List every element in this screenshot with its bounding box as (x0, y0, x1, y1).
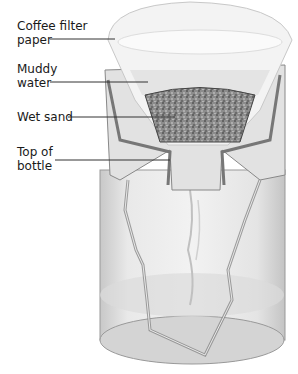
bottle-bottom (100, 170, 285, 364)
label-muddy-water: Muddy water (17, 62, 57, 90)
label-top-of-bottle: Top of bottle (17, 145, 53, 173)
label-wet-sand: Wet sand (17, 110, 73, 124)
water-filter-illustration (0, 0, 298, 374)
label-coffee-filter-paper: Coffee filter paper (17, 19, 87, 47)
